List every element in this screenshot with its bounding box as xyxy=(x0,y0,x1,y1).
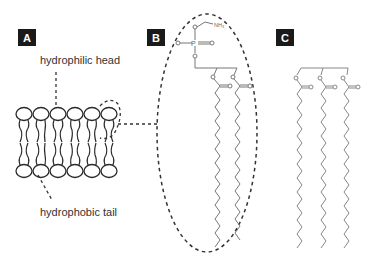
phospholipid-structure xyxy=(176,22,252,247)
zoom-oval xyxy=(157,14,257,252)
triglyceride-structure xyxy=(294,68,360,248)
leader-lines xyxy=(38,72,56,200)
bilayer-tails xyxy=(19,120,114,165)
amine-label: NH₃ xyxy=(214,22,224,28)
phosphorus-label: P xyxy=(191,40,196,47)
membrane-diagram: P NH₃ xyxy=(0,0,369,264)
bilayer-illustration xyxy=(16,108,117,178)
